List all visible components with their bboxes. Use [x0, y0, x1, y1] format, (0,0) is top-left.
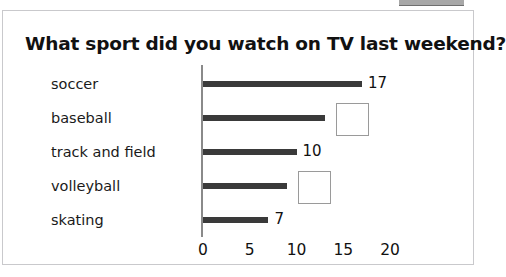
- bar-skating: [203, 217, 268, 223]
- bar-volleyball: [203, 183, 287, 189]
- category-label-track-and-field: track and field: [51, 144, 191, 160]
- x-tick-label-20: 20: [375, 241, 405, 259]
- bar-baseball: [203, 115, 325, 121]
- category-label-baseball: baseball: [51, 110, 191, 126]
- answer-box-baseball[interactable]: [336, 103, 369, 136]
- x-tick-label-10: 10: [282, 241, 312, 259]
- x-tick-label-0: 0: [188, 241, 218, 259]
- worksheet-card: What sport did you watch on TV last week…: [2, 10, 474, 265]
- bar-track-and-field: [203, 149, 297, 155]
- x-tick-label-15: 15: [328, 241, 358, 259]
- category-label-soccer: soccer: [51, 76, 191, 92]
- category-label-skating: skating: [51, 212, 191, 228]
- answer-box-volleyball[interactable]: [298, 171, 331, 204]
- bar-soccer: [203, 81, 362, 87]
- cropped-top-strip: [399, 0, 464, 6]
- category-label-volleyball: volleyball: [51, 178, 191, 194]
- bar-value-soccer: 17: [368, 74, 387, 92]
- bar-value-skating: 7: [274, 210, 284, 228]
- x-tick-label-5: 5: [235, 241, 265, 259]
- bar-value-track-and-field: 10: [303, 142, 322, 160]
- bar-chart: soccer baseball track and field volleyba…: [3, 11, 475, 266]
